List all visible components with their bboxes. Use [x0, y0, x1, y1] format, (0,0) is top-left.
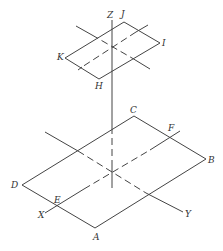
label-a: A — [92, 232, 100, 242]
bottom-parallelogram — [22, 116, 206, 228]
label-x: X — [37, 210, 45, 220]
label-h: H — [94, 81, 103, 91]
label-e: E — [53, 195, 61, 205]
x-axis-front — [45, 189, 84, 213]
label-y: Y — [185, 209, 192, 219]
top-line-a-start — [76, 26, 92, 35]
y-axis-front — [146, 193, 183, 212]
y-axis-back — [45, 132, 78, 151]
top-line-b-start — [136, 25, 148, 32]
label-f: F — [167, 123, 175, 133]
label-d: D — [10, 180, 18, 190]
label-j: J — [119, 9, 126, 19]
label-k: K — [56, 52, 65, 62]
label-b: B — [207, 155, 215, 165]
diagram-canvas: Z J I K H C F B D E X Y A — [0, 0, 223, 251]
x-axis-hidden — [84, 150, 150, 189]
label-i: I — [161, 38, 166, 48]
label-z: Z — [106, 10, 114, 20]
label-c: C — [130, 105, 137, 115]
top-line-a-end — [132, 58, 150, 69]
